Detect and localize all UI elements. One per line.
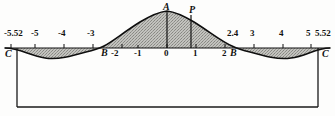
point-label-c-right: C bbox=[322, 49, 329, 59]
curve-diagram-svg bbox=[0, 0, 335, 116]
axis-label-top: 3 bbox=[250, 29, 255, 38]
axis-label-bottom: -2 bbox=[111, 49, 119, 58]
point-label-c-left: C bbox=[5, 49, 12, 59]
axis-label-top: -5 bbox=[31, 29, 39, 38]
axis-label-bottom: -1 bbox=[134, 49, 142, 58]
axis-label-top: 4 bbox=[279, 29, 284, 38]
point-label-b-right: B bbox=[230, 48, 237, 58]
axis-label-top: -5.52 bbox=[4, 29, 23, 38]
axis-label-bottom: 1 bbox=[193, 49, 198, 58]
point-label-a: A bbox=[163, 2, 170, 12]
axis-label-bottom: 0 bbox=[164, 49, 169, 58]
axis-label-top: 5 bbox=[306, 29, 311, 38]
point-label-b-left: B bbox=[101, 48, 108, 58]
axis-label-top: -3 bbox=[87, 29, 95, 38]
axis-label-top: -4 bbox=[58, 29, 66, 38]
figure-panel: -5.52 -5 -4 -3 2.4 3 4 5 5.52 -2 -1 0 1 … bbox=[0, 0, 335, 116]
axis-label-top: 5.52 bbox=[315, 29, 331, 38]
axis-label-top: 2.4 bbox=[227, 29, 238, 38]
axis-label-bottom: 2 bbox=[222, 49, 227, 58]
point-label-p: P bbox=[189, 5, 195, 15]
